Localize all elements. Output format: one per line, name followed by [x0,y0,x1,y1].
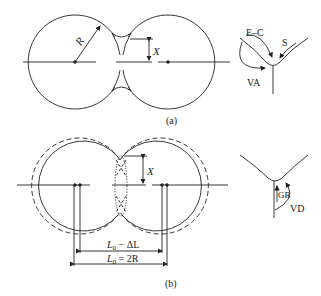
caption-b: (b) [165,278,177,290]
radius-label: R [72,35,86,48]
neck-label-a: X [152,45,161,57]
left-particle-b [39,141,118,231]
ec-label: E–C [246,27,264,38]
neck-region-b [115,156,127,216]
dim-shrunk-label: L0 − ΔL [106,239,139,252]
caption-a: (a) [166,115,177,127]
neck-surface-a [240,38,308,66]
panel-a [23,15,230,109]
va-label: VA [247,77,261,88]
right-particle-original [120,138,208,234]
s-label: S [282,37,288,48]
gb-label: GB [278,190,291,200]
neck-surface-b [240,155,308,181]
neck-label-b: X [146,165,155,177]
sintering-diagram: R X (a) E–C S VA [0,0,321,296]
vd-label: VD [290,203,304,214]
va-arrow [240,42,265,68]
